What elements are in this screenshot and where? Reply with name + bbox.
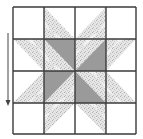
quilt-cell-r3-c2 [75, 103, 106, 134]
quilt-cell-r1-c2 [75, 39, 106, 71]
speckled-triangle [44, 7, 75, 39]
quilt-cell-r0-c2 [75, 7, 106, 39]
speckled-triangle [106, 71, 136, 103]
quilt-block-diagram [0, 0, 143, 139]
speckled-triangle [44, 103, 75, 134]
quilt-cell-r1-c1 [44, 39, 75, 71]
speckled-triangle [75, 7, 106, 39]
quilt-cell-r0-c1 [44, 7, 75, 39]
quilt-cell-r2-c1 [44, 71, 75, 103]
quilt-cell-r3-c1 [44, 103, 75, 134]
speckled-triangle [13, 71, 44, 103]
arrow-down-icon [6, 33, 11, 106]
speckled-triangle [75, 103, 106, 134]
grid-lines [13, 7, 136, 134]
quilt-cell-r1-c0 [13, 39, 44, 71]
quilt-cell-r2-c3 [106, 71, 136, 103]
quilt-cell-r2-c2 [75, 71, 106, 103]
speckled-triangle [106, 39, 136, 71]
speckled-triangle [13, 39, 44, 71]
quilt-cell-r2-c0 [13, 71, 44, 103]
quilt-cell-r1-c3 [106, 39, 136, 71]
